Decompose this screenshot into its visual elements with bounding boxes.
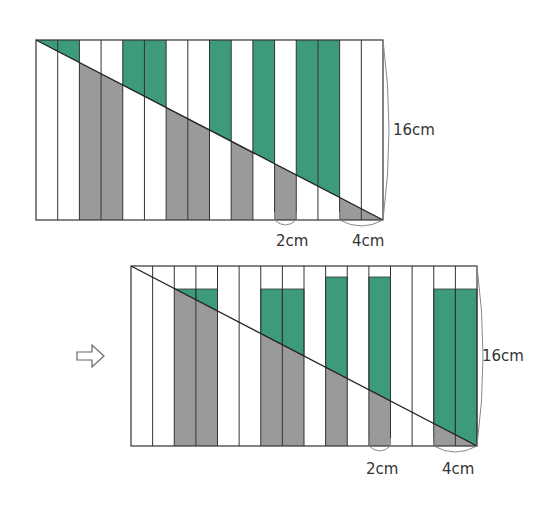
gray-strip — [188, 119, 210, 220]
gray-strip — [196, 300, 218, 446]
green-strip — [296, 40, 318, 186]
gray-strip — [101, 74, 123, 220]
gray-strip — [326, 367, 348, 446]
green-strip — [369, 277, 391, 401]
green-strip — [326, 277, 348, 379]
bottom-4cm-label: 4cm — [442, 460, 474, 478]
gray-strip — [174, 289, 196, 447]
gray-strip — [340, 198, 362, 221]
gray-strip — [282, 345, 304, 446]
green-strip — [58, 40, 80, 63]
top-figure — [36, 40, 389, 226]
gray-strip — [79, 63, 101, 221]
green-strip — [123, 40, 145, 96]
bottom-figure — [131, 266, 483, 452]
gray-strip — [261, 334, 283, 447]
gray-strip — [231, 141, 253, 220]
gray-strip — [275, 164, 297, 220]
bottom-2cm-label: 2cm — [366, 460, 398, 478]
green-strip — [455, 289, 477, 446]
gray-strip — [166, 108, 188, 221]
green-strip — [210, 40, 232, 141]
top-2cm-label: 2cm — [276, 232, 308, 250]
arrow-icon — [77, 345, 104, 367]
top-4cm-label: 4cm — [352, 232, 384, 250]
green-strip — [253, 40, 275, 164]
green-strip — [434, 289, 456, 435]
diagram-canvas: 16cm 2cm 4cm 16cm 2cm 4cm — [0, 0, 554, 508]
height-brace — [383, 40, 389, 220]
top-height-label: 16cm — [393, 121, 435, 139]
green-strip — [318, 40, 340, 198]
bottom-height-label: 16cm — [482, 347, 524, 365]
